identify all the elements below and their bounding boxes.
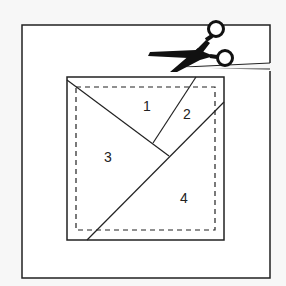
section-label-3: 3 bbox=[104, 149, 112, 165]
section-label-4: 4 bbox=[180, 190, 188, 206]
foundation-diagram: 1 2 3 4 bbox=[0, 0, 286, 286]
section-label-1: 1 bbox=[143, 98, 151, 114]
section-label-2: 2 bbox=[183, 106, 191, 122]
